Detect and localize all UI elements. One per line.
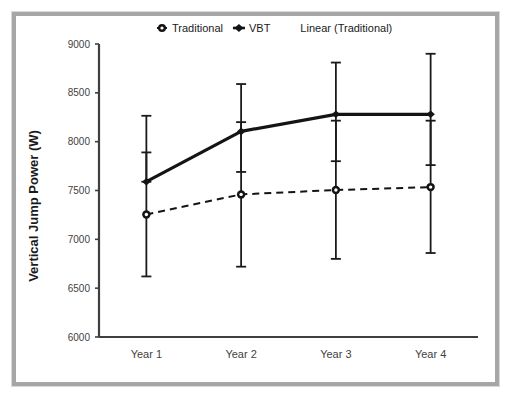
y-tick-label: 8000: [68, 136, 91, 147]
y-axis-title: Vertical Jump Power (W): [26, 130, 41, 282]
legend-item-traditional: Traditional: [157, 22, 223, 34]
chart-legend: TraditionalVBTLinear (Traditional): [157, 22, 392, 34]
legend-item-linear-traditional: Linear (Traditional): [300, 22, 392, 34]
data-series: [146, 114, 430, 214]
data-point-marker: [332, 111, 340, 119]
data-point-marker: [237, 190, 245, 198]
y-tick-label: 7000: [68, 234, 91, 245]
data-point-marker: [426, 183, 434, 191]
marker-circle-hole: [334, 188, 337, 191]
x-axis-labels: Year 1Year 2Year 3Year 4: [131, 348, 447, 360]
y-tick-label: 9000: [68, 39, 91, 50]
series-line-linear-traditional: [146, 187, 430, 214]
data-point-marker: [426, 111, 434, 119]
legend-label: VBT: [249, 22, 271, 34]
x-axis-label: Year 4: [415, 348, 446, 360]
legend-marker-circle-hole: [160, 26, 163, 29]
x-axis-label: Year 1: [131, 348, 162, 360]
y-tick-label: 6500: [68, 283, 91, 294]
marker-diamond-filled-icon: [332, 111, 340, 119]
y-tick-label: 7500: [68, 185, 91, 196]
data-point-marker: [142, 210, 150, 218]
legend-item-vbt: VBT: [233, 22, 271, 34]
marker-circle-hole: [429, 185, 432, 188]
legend-label: Traditional: [172, 22, 223, 34]
marker-circle-hole: [239, 193, 242, 196]
error-bar: [141, 116, 151, 182]
chart-frame: TraditionalVBTLinear (Traditional) Verti…: [12, 12, 499, 386]
marker-diamond-filled-icon: [426, 111, 434, 119]
data-markers: [142, 111, 435, 219]
x-axis-label: Year 2: [225, 348, 256, 360]
x-axis-label: Year 3: [320, 348, 351, 360]
series-line-vbt: [146, 114, 430, 181]
chart-plot-area: TraditionalVBTLinear (Traditional) Verti…: [16, 16, 495, 382]
error-bars: [141, 54, 435, 277]
legend-label: Linear (Traditional): [300, 22, 392, 34]
data-point-marker: [332, 186, 340, 194]
y-tick-label: 6000: [68, 332, 91, 343]
y-tick-label: 8500: [68, 87, 91, 98]
y-axis-ticks: 6000650070007500800085009000: [68, 39, 99, 343]
marker-circle-hole: [145, 213, 148, 216]
error-bar: [426, 54, 436, 165]
legend-marker-diamond-filled-icon: [234, 24, 243, 32]
